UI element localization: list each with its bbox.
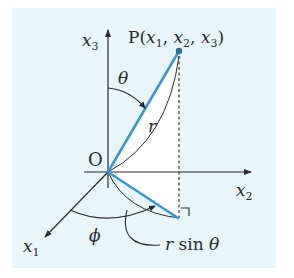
origin-label: O <box>88 149 103 170</box>
phi-label: ϕ <box>89 225 101 245</box>
r-label: r <box>148 116 157 136</box>
point-p-marker <box>176 48 182 54</box>
spherical-coordinates-diagram: x3 x2 x1 O P(x1, x2, x3) θ r ϕ r sin θ <box>0 0 294 278</box>
theta-label: θ <box>118 68 128 88</box>
r-sin-theta-label: r sin θ <box>165 234 219 254</box>
point-p-label: P(x1, x2, x3) <box>128 27 224 50</box>
